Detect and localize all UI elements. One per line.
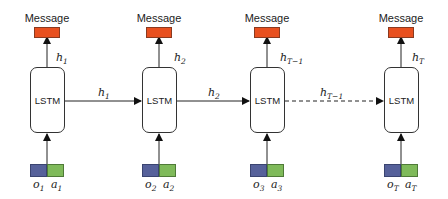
observation-box-T xyxy=(384,164,401,177)
output-h-label-2: h2 xyxy=(174,51,186,66)
lstm-label-1: LSTM xyxy=(35,95,60,106)
lstm-label-3: LSTM xyxy=(255,95,280,106)
message-box-T xyxy=(388,27,414,38)
action-box-T xyxy=(401,164,418,177)
input-pair-1 xyxy=(30,164,64,177)
observation-box-1 xyxy=(30,164,47,177)
act-label-2: a2 xyxy=(163,178,174,193)
observation-box-2 xyxy=(142,164,159,177)
message-box-3 xyxy=(254,27,280,38)
output-h-label-3: hT−1 xyxy=(280,51,303,66)
input-pair-T xyxy=(384,164,418,177)
act-label-1: a1 xyxy=(51,178,62,193)
output-h-label-T: hT xyxy=(412,51,424,66)
observation-box-3 xyxy=(250,164,267,177)
edge-label-2: h2 xyxy=(208,86,220,101)
input-pair-3 xyxy=(250,164,284,177)
connections xyxy=(0,0,448,199)
message-box-1 xyxy=(34,27,60,38)
message-label-1: Message xyxy=(12,12,82,24)
edge-label-3: hT−1 xyxy=(320,86,343,101)
action-box-3 xyxy=(267,164,284,177)
lstm-label-T: LSTM xyxy=(389,95,414,106)
action-box-1 xyxy=(47,164,64,177)
message-label-T: Message xyxy=(366,12,436,24)
message-label-2: Message xyxy=(124,12,194,24)
act-label-T: aT xyxy=(405,178,417,193)
obs-label-3: o3 xyxy=(253,178,264,193)
edge-label-1: h1 xyxy=(98,86,110,101)
action-box-2 xyxy=(159,164,176,177)
obs-label-1: o1 xyxy=(33,178,44,193)
obs-label-T: oT xyxy=(387,178,399,193)
lstm-cell-1: LSTM xyxy=(30,67,65,133)
lstm-label-2: LSTM xyxy=(147,95,172,106)
input-pair-2 xyxy=(142,164,176,177)
message-label-3: Message xyxy=(232,12,302,24)
lstm-cell-T: LSTM xyxy=(384,67,419,133)
message-box-2 xyxy=(146,27,172,38)
lstm-cell-2: LSTM xyxy=(142,67,177,133)
output-h-label-1: h1 xyxy=(56,51,68,66)
act-label-3: a3 xyxy=(271,178,282,193)
lstm-cell-3: LSTM xyxy=(250,67,285,133)
obs-label-2: o2 xyxy=(145,178,156,193)
